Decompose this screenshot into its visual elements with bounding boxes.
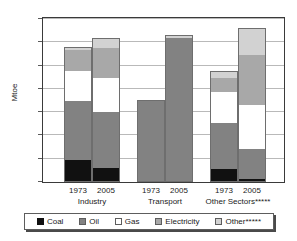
bar-segment-coal — [92, 168, 120, 182]
legend-item[interactable]: Coal — [37, 217, 63, 226]
gridline — [43, 18, 284, 19]
bar-transport-1973[interactable] — [137, 100, 165, 182]
bar-segment-electricity — [64, 50, 92, 70]
bar-segment-other — [238, 28, 266, 55]
bar-segment-gas — [64, 71, 92, 101]
bar-segment-gas — [238, 105, 266, 149]
x-group-label: Other Sectors***** — [178, 197, 297, 206]
legend-swatch-other — [215, 218, 222, 225]
legend-label: Oil — [89, 217, 99, 226]
stacked-bar-chart: Mtoe 0200400600800100012001400 197320051… — [0, 0, 297, 241]
bar-industry-1973[interactable] — [64, 47, 92, 182]
bar-other-sectors-2005[interactable] — [238, 28, 266, 182]
plot-area — [42, 17, 285, 183]
legend-label: Electricity — [165, 217, 199, 226]
bar-segment-other — [92, 38, 120, 48]
plot-inner — [43, 18, 284, 182]
x-tick-label-year: 2005 — [232, 186, 272, 195]
bar-segment-electricity — [238, 55, 266, 105]
bar-segment-coal — [210, 169, 238, 182]
bar-segment-other — [64, 47, 92, 50]
bar-segment-oil — [137, 101, 165, 182]
y-axis-title: Mtoe — [10, 63, 19, 123]
legend-swatch-oil — [79, 218, 86, 225]
bar-segment-oil — [92, 112, 120, 168]
legend-item[interactable]: Other***** — [215, 217, 261, 226]
bar-segment-gas — [92, 78, 120, 112]
bar-segment-oil — [210, 123, 238, 170]
bar-segment-electricity — [92, 48, 120, 79]
bar-segment-coal — [238, 179, 266, 182]
bar-other-sectors-1973[interactable] — [210, 71, 238, 182]
x-tick-label-year: 2005 — [159, 186, 199, 195]
bar-segment-electricity — [210, 78, 238, 93]
legend-swatch-electricity — [155, 218, 162, 225]
legend-item[interactable]: Electricity — [155, 217, 199, 226]
x-tick-label-year: 2005 — [86, 186, 126, 195]
bar-segment-oil — [165, 38, 193, 182]
bar-segment-other — [137, 100, 165, 101]
legend-item[interactable]: Gas — [115, 217, 140, 226]
bar-segment-oil — [64, 101, 92, 160]
legend-item[interactable]: Oil — [79, 217, 99, 226]
bar-segment-coal — [64, 160, 92, 182]
bar-segment-other — [165, 35, 193, 38]
bar-segment-oil — [238, 149, 266, 179]
legend-label: Gas — [125, 217, 140, 226]
legend-label: Other***** — [225, 217, 261, 226]
bar-transport-2005[interactable] — [165, 35, 193, 182]
bar-segment-other — [210, 71, 238, 78]
bar-segment-gas — [210, 92, 238, 122]
legend-label: Coal — [47, 217, 63, 226]
legend-swatch-coal — [37, 218, 44, 225]
chart-legend: CoalOilGasElectricityOther***** — [24, 213, 274, 230]
legend-swatch-gas — [115, 218, 122, 225]
bar-industry-2005[interactable] — [92, 38, 120, 182]
